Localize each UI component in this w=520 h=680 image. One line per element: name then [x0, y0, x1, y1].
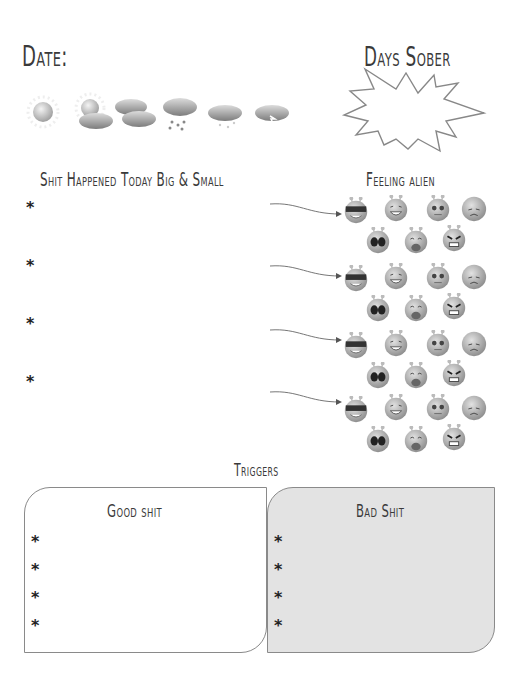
days-sober-starburst[interactable] — [340, 65, 490, 155]
alien-angry-icon[interactable] — [440, 360, 468, 388]
arrow-icon — [268, 200, 348, 220]
alien-sad-icon[interactable] — [460, 195, 488, 223]
alien-sad-icon[interactable] — [460, 330, 488, 358]
alien-feelings-row-4 — [340, 394, 495, 459]
alien-scared-icon[interactable] — [364, 362, 392, 390]
alien-cool-icon[interactable] — [342, 396, 370, 424]
feelings-title: Feeling alien — [366, 168, 435, 190]
alien-crying-icon[interactable] — [402, 362, 430, 390]
alien-cool-icon[interactable] — [342, 265, 370, 293]
alien-scared-icon[interactable] — [364, 426, 392, 454]
alien-laughing-icon[interactable] — [382, 263, 410, 291]
good-bullet-1[interactable]: * — [31, 534, 39, 550]
triggers-title: Triggers — [234, 460, 279, 480]
alien-crying-icon[interactable] — [402, 295, 430, 323]
bad-bullet-1[interactable]: * — [274, 534, 282, 550]
snow-icon[interactable] — [208, 105, 242, 128]
alien-scared-icon[interactable] — [364, 227, 392, 255]
good-triggers-title: Good shit — [107, 500, 162, 521]
good-bullet-3[interactable]: * — [31, 590, 39, 606]
alien-cool-icon[interactable] — [342, 197, 370, 225]
alien-worried-icon[interactable] — [424, 394, 452, 422]
arrow-icon — [268, 262, 348, 282]
alien-sad-icon[interactable] — [460, 394, 488, 422]
alien-worried-icon[interactable] — [424, 330, 452, 358]
alien-crying-icon[interactable] — [402, 227, 430, 255]
partly-cloudy-icon[interactable] — [76, 94, 113, 129]
alien-angry-icon[interactable] — [440, 424, 468, 452]
weather-row — [20, 92, 300, 137]
sun-icon[interactable] — [28, 97, 58, 127]
arrow-icon — [268, 326, 348, 346]
event-bullet-2[interactable]: * — [26, 258, 34, 274]
alien-angry-icon[interactable] — [440, 225, 468, 253]
alien-sad-icon[interactable] — [460, 263, 488, 291]
alien-laughing-icon[interactable] — [382, 394, 410, 422]
bad-bullet-3[interactable]: * — [274, 590, 282, 606]
starburst-shape — [344, 69, 484, 151]
events-title: Shit Happened Today Big & Small — [40, 168, 224, 190]
bad-bullet-4[interactable]: * — [274, 618, 282, 634]
alien-crying-icon[interactable] — [402, 426, 430, 454]
good-triggers-box[interactable]: Good shit * * * * — [24, 487, 267, 653]
alien-laughing-icon[interactable] — [382, 195, 410, 223]
thunder-icon[interactable] — [255, 105, 289, 125]
cloudy-icon[interactable] — [115, 99, 156, 127]
bad-triggers-box[interactable]: Bad Shit * * * * — [267, 487, 495, 653]
event-bullet-4[interactable]: * — [26, 374, 34, 390]
rain-icon[interactable] — [163, 98, 197, 131]
date-label: Date: — [22, 40, 68, 73]
event-bullet-3[interactable]: * — [26, 316, 34, 332]
bad-bullet-2[interactable]: * — [274, 562, 282, 578]
arrow-icon — [268, 388, 348, 408]
alien-laughing-icon[interactable] — [382, 330, 410, 358]
alien-worried-icon[interactable] — [424, 195, 452, 223]
event-bullet-1[interactable]: * — [26, 200, 34, 216]
alien-feelings-row-3 — [340, 330, 495, 395]
alien-cool-icon[interactable] — [342, 332, 370, 360]
alien-feelings-row-2 — [340, 263, 495, 328]
alien-scared-icon[interactable] — [364, 295, 392, 323]
good-bullet-2[interactable]: * — [31, 562, 39, 578]
alien-feelings-row-1 — [340, 195, 495, 260]
bad-triggers-title: Bad Shit — [356, 500, 404, 521]
alien-worried-icon[interactable] — [424, 263, 452, 291]
good-bullet-4[interactable]: * — [31, 618, 39, 634]
alien-angry-icon[interactable] — [440, 293, 468, 321]
